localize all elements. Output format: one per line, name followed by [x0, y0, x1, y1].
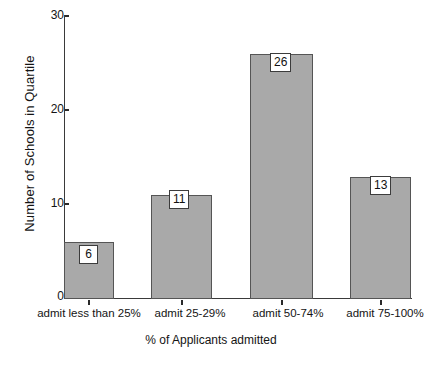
bar-value-label-2: 11 — [169, 190, 189, 209]
bar-value-label-1: 6 — [79, 245, 98, 264]
bar-admit-25-29 — [151, 195, 212, 299]
y-tick-label-0: 0 — [38, 289, 64, 303]
x-tick-label-4: admit 75-100% — [346, 307, 423, 319]
y-tick-mark-30 — [65, 15, 69, 17]
x-tick-mark-4 — [380, 300, 382, 305]
x-tick-mark-2 — [181, 300, 183, 305]
bar-admit-75-100 — [350, 177, 411, 299]
y-tick-mark-20 — [65, 109, 69, 111]
y-tick-mark-10 — [65, 203, 69, 205]
bar-value-label-4: 13 — [370, 176, 391, 195]
x-tick-label-3: admit 50-74% — [253, 307, 324, 319]
y-tick-label-30: 30 — [38, 8, 64, 22]
x-tick-mark-1 — [88, 300, 90, 305]
x-tick-label-2: admit 25-29% — [155, 307, 226, 319]
x-tick-mark-3 — [281, 300, 283, 305]
y-axis-title: Number of Schools in Quartile — [22, 29, 37, 259]
bar-value-label-3: 26 — [270, 53, 291, 72]
bar-admit-50-74 — [250, 54, 313, 299]
x-axis-title: % of Applicants admitted — [0, 333, 422, 347]
y-tick-label-10: 10 — [38, 196, 64, 210]
y-tick-label-20: 20 — [38, 102, 64, 116]
x-tick-label-1: admit less than 25% — [37, 307, 141, 319]
